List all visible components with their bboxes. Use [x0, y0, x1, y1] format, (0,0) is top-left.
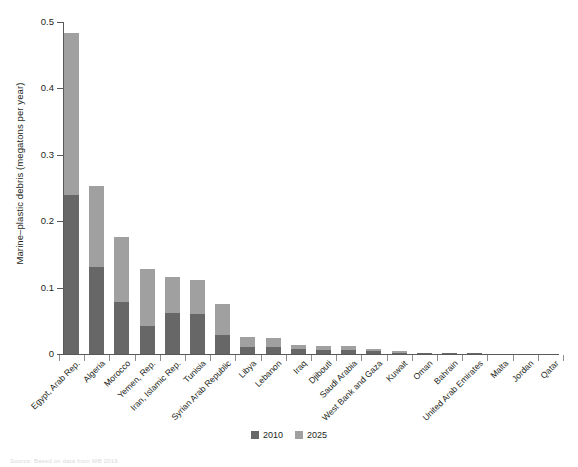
legend-swatch-icon	[251, 431, 259, 439]
bar-column[interactable]	[240, 337, 255, 354]
bar-column[interactable]	[316, 346, 331, 354]
bar-segment-2025	[240, 337, 255, 346]
bar-series-container	[0, 0, 578, 354]
bar-column[interactable]	[89, 186, 104, 354]
bar-segment-2010	[165, 313, 180, 354]
bar-segment-2010	[114, 302, 129, 354]
bar-segment-2025	[64, 33, 79, 196]
bar-column[interactable]	[190, 280, 205, 354]
bar-segment-2025	[89, 186, 104, 267]
bar-segment-2010	[89, 267, 104, 354]
bar-column[interactable]	[114, 237, 129, 354]
bar-column[interactable]	[64, 33, 79, 354]
bar-column[interactable]	[266, 338, 281, 354]
legend-swatch-icon	[295, 431, 303, 439]
chart-legend: 20102025	[0, 430, 578, 440]
bar-segment-2010	[64, 195, 79, 354]
bar-segment-2025	[140, 269, 155, 326]
bar-segment-2025	[215, 304, 230, 335]
bar-column[interactable]	[215, 304, 230, 354]
bar-segment-2010	[190, 314, 205, 354]
bar-column[interactable]	[165, 277, 180, 354]
bar-segment-2010	[140, 326, 155, 354]
bar-segment-2025	[190, 280, 205, 314]
bar-segment-2010	[240, 347, 255, 354]
bar-column[interactable]	[291, 345, 306, 354]
legend-item[interactable]: 2025	[295, 430, 327, 440]
bar-segment-2010	[215, 335, 230, 354]
chart-figure: Marine–plastic debris (megatons per year…	[0, 0, 578, 467]
legend-label: 2025	[307, 430, 327, 440]
legend-item[interactable]: 2010	[251, 430, 283, 440]
bar-segment-2025	[114, 237, 129, 301]
legend-label: 2010	[263, 430, 283, 440]
bar-column[interactable]	[341, 346, 356, 354]
source-note: Source: Based on data from WB 2019.	[10, 458, 120, 464]
bar-segment-2025	[266, 338, 281, 347]
bar-segment-2025	[165, 277, 180, 313]
bar-segment-2010	[266, 347, 281, 354]
bar-column[interactable]	[140, 269, 155, 354]
